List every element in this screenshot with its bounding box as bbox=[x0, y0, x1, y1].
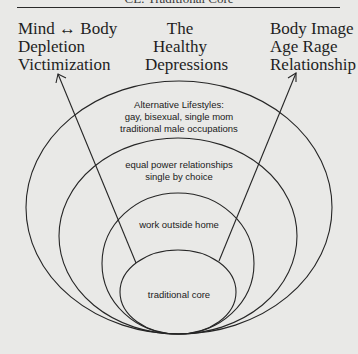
ring-label-third: work outside home bbox=[79, 219, 279, 231]
ring-label-second: equal power relationships single by choi… bbox=[79, 159, 279, 183]
right-arrowhead-icon bbox=[288, 73, 296, 82]
ring-label-outer: Alternative Lifestyles: gay, bisexual, s… bbox=[79, 99, 279, 135]
third-ellipse bbox=[102, 193, 254, 334]
ring-label-core: traditional core bbox=[79, 289, 279, 301]
